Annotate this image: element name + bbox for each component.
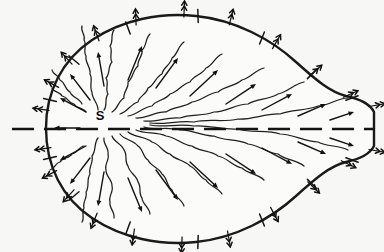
boundary-outflow-arrow xyxy=(310,65,322,76)
boundary-outflow-arrow xyxy=(308,182,320,193)
boundary-outflow-arrow xyxy=(136,9,137,25)
figure-container: S xyxy=(0,0,384,252)
boundary-outflow-arrow xyxy=(184,1,185,17)
radial-source-flow-diagram: S xyxy=(0,0,384,252)
boundary-outflow-arrow xyxy=(182,237,183,252)
source-label-s: S xyxy=(96,108,105,123)
